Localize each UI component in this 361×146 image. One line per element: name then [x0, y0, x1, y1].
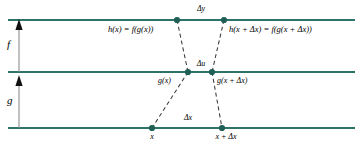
connector-hx-to-gx — [177, 20, 188, 72]
g-of-x-label: g(x) — [158, 77, 171, 85]
node-h-x-plus-dx — [221, 17, 227, 23]
h-of-x-label: h(x) = f(g(x)) — [108, 25, 153, 34]
h-of-x-plus-dx-label: h(x + Δx) = f(g(x + Δx)) — [229, 25, 312, 34]
delta-u-label: Δu — [197, 60, 206, 68]
chain-rule-diagram: f g Δy Δu Δx h(x) = f(g(x)) h(x + Δx) = … — [0, 0, 361, 146]
f-axis-label: f — [7, 39, 10, 50]
g-of-x-plus-dx-label: g(x + Δx) — [217, 77, 248, 85]
g-axis-label: g — [7, 95, 13, 106]
connector-hxdx-to-gxdx — [212, 20, 224, 72]
node-x — [149, 125, 155, 131]
delta-x-label: Δx — [184, 114, 192, 122]
x-plus-dx-label: x + Δx — [215, 133, 236, 141]
node-h-x — [174, 17, 180, 23]
g-arrow-head — [15, 75, 22, 86]
delta-y-label: Δy — [197, 5, 205, 13]
node-g-x — [185, 69, 191, 75]
node-g-x-plus-dx — [209, 69, 215, 75]
x-label: x — [150, 133, 154, 141]
diagram-canvas — [0, 0, 361, 146]
node-x-plus-dx — [219, 125, 225, 131]
